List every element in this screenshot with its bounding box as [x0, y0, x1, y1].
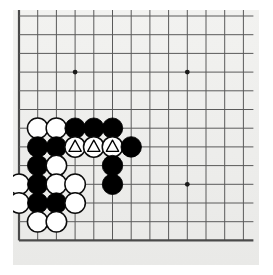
stone-disc — [46, 137, 67, 158]
stone-disc — [121, 137, 142, 158]
stone-black[interactable] — [121, 137, 142, 158]
stone-disc — [46, 193, 67, 214]
stone-disc — [65, 193, 86, 214]
stone-disc — [27, 137, 48, 158]
stone-black[interactable] — [46, 137, 67, 158]
stone-disc — [84, 118, 105, 139]
stone-disc — [27, 155, 48, 176]
stone-disc — [13, 174, 29, 195]
stone-white[interactable] — [46, 211, 67, 232]
stone-disc — [46, 174, 67, 195]
stone-disc — [46, 118, 67, 139]
stone-black[interactable] — [102, 118, 123, 139]
stone-white[interactable] — [46, 155, 67, 176]
stone-disc — [65, 118, 86, 139]
stone-disc — [102, 174, 123, 195]
stone-white-marked[interactable] — [102, 137, 123, 158]
stone-disc — [65, 174, 86, 195]
stone-white[interactable] — [46, 174, 67, 195]
stone-black[interactable] — [46, 193, 67, 214]
stone-black[interactable] — [65, 118, 86, 139]
stone-black[interactable] — [27, 137, 48, 158]
stone-black[interactable] — [102, 174, 123, 195]
go-board[interactable] — [13, 10, 259, 265]
stone-black[interactable] — [27, 155, 48, 176]
stone-disc — [27, 174, 48, 195]
stone-white-marked[interactable] — [65, 137, 86, 158]
stone-disc — [46, 211, 67, 232]
stone-black[interactable] — [102, 155, 123, 176]
stone-white[interactable] — [46, 118, 67, 139]
stone-white[interactable] — [65, 193, 86, 214]
stone-black[interactable] — [27, 174, 48, 195]
stone-disc — [102, 118, 123, 139]
stone-white[interactable] — [27, 211, 48, 232]
stone-disc — [27, 211, 48, 232]
stone-disc — [27, 118, 48, 139]
stone-disc — [13, 193, 29, 214]
stone-layer[interactable] — [13, 10, 259, 265]
stone-disc — [46, 155, 67, 176]
stone-white-marked[interactable] — [84, 137, 105, 158]
stone-black[interactable] — [27, 193, 48, 214]
stone-white[interactable] — [13, 193, 29, 214]
stone-white[interactable] — [27, 118, 48, 139]
stone-white[interactable] — [13, 174, 29, 195]
stone-black[interactable] — [84, 118, 105, 139]
stone-white[interactable] — [65, 174, 86, 195]
stone-disc — [102, 155, 123, 176]
stone-disc — [27, 193, 48, 214]
go-diagram-root — [0, 0, 273, 275]
